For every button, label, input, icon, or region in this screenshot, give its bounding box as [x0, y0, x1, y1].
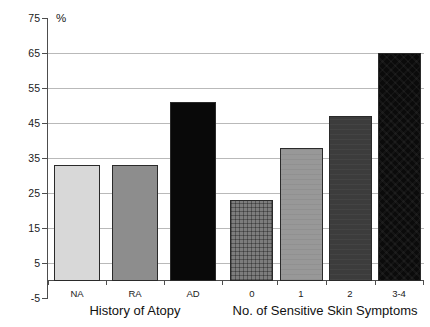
bar-symptoms-2 — [329, 116, 372, 281]
x-label-ra: RA — [128, 288, 141, 299]
x-tick-mark-4 — [277, 281, 278, 285]
group-title-sensitive-skin-symptoms: No. of Sensitive Skin Symptoms — [233, 303, 418, 318]
x-label-symptoms-0: 0 — [249, 288, 254, 299]
x-label-symptoms-3-4: 3-4 — [392, 288, 406, 299]
x-label-symptoms-2: 2 — [347, 288, 352, 299]
y-tick-label-75: 75 — [4, 12, 40, 24]
x-label-symptoms-1: 1 — [298, 288, 303, 299]
x-label-ad: AD — [186, 288, 199, 299]
bar-na — [54, 165, 100, 281]
bar-symptoms-3-4 — [378, 53, 421, 281]
y-tick-label-15: 15 — [4, 222, 40, 234]
x-tick-mark-1 — [106, 281, 107, 285]
y-tick-label-neg5: -5 — [4, 292, 40, 304]
y-tick-label-35: 35 — [4, 152, 40, 164]
y-tick-label-5: 5 — [4, 257, 40, 269]
x-tick-mark-0 — [48, 281, 49, 285]
bar-ad — [170, 102, 216, 281]
bar-chart-figure: % 75 65 55 45 35 25 15 5 -5 — [0, 0, 430, 327]
y-tick-label-55: 55 — [4, 82, 40, 94]
gridline-55 — [48, 88, 424, 89]
bar-symptoms-0 — [230, 200, 273, 281]
bar-ra — [112, 165, 158, 281]
group-title-history-of-atopy: History of Atopy — [89, 303, 180, 318]
gridline-65 — [48, 53, 424, 54]
plot-area — [48, 18, 424, 298]
x-tick-mark-2 — [164, 281, 165, 285]
x-tick-mark-6 — [375, 281, 376, 285]
bar-symptoms-1 — [280, 148, 323, 281]
x-tick-mark-7 — [423, 281, 424, 285]
x-tick-mark-5 — [326, 281, 327, 285]
y-tick-label-65: 65 — [4, 47, 40, 59]
y-tick-label-45: 45 — [4, 117, 40, 129]
y-tick-label-25: 25 — [4, 187, 40, 199]
y-axis-tick-labels: 75 65 55 45 35 25 15 5 -5 — [0, 0, 40, 327]
x-tick-mark-3 — [222, 281, 223, 285]
x-label-na: NA — [70, 288, 83, 299]
